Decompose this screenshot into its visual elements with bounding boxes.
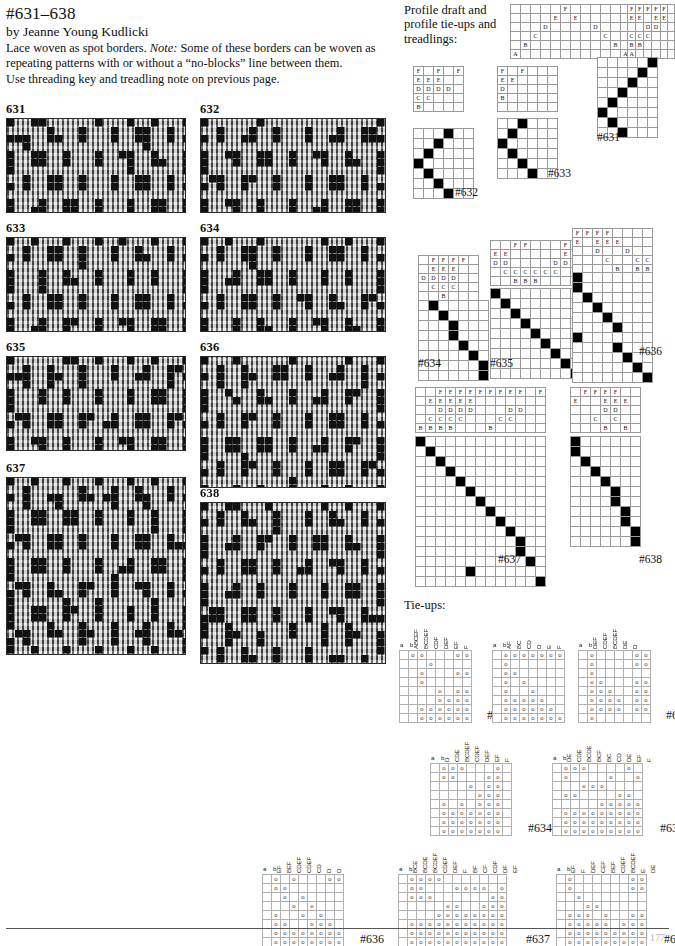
grid-cell (409, 678, 418, 687)
grid-cell (440, 800, 449, 809)
grid-cell (335, 929, 344, 938)
grid-cell (290, 911, 299, 920)
grid-cell (506, 467, 516, 477)
grid-cell (520, 714, 529, 723)
grid-cell (613, 256, 623, 265)
grid-cell: D (551, 259, 561, 268)
grid-cell (581, 424, 591, 433)
grid-row (414, 139, 474, 149)
grid-cell (479, 311, 489, 321)
tieup-column-header: BC (605, 754, 612, 762)
grid-cell (459, 331, 469, 341)
grid-cell (584, 884, 593, 893)
grid-cell: F (583, 229, 593, 238)
woven-sample-image (6, 356, 186, 451)
grid-cell (449, 341, 459, 351)
grid-cell (616, 773, 625, 782)
grid-row: CC (414, 94, 464, 103)
grid-cell (444, 169, 454, 179)
grid-cell (536, 487, 546, 497)
grid-cell (551, 5, 561, 14)
grid-cell (580, 809, 589, 818)
grid-row (493, 669, 565, 678)
tieup-header-row: abBCEBCDEBCDEFCDEFDEFFBFCFCDFDFEF (398, 840, 507, 874)
grid-cell (281, 911, 290, 920)
grid-cell (628, 128, 638, 138)
grid-cell (496, 497, 506, 507)
grid-cell (588, 678, 597, 687)
grid-cell (485, 764, 494, 773)
grid-cell (317, 938, 326, 946)
grid-cell (634, 764, 643, 773)
grid-cell (436, 557, 446, 567)
grid-cell (583, 363, 593, 373)
grid-cell (508, 94, 518, 103)
note-text-lead: Lace woven as spot borders. (6, 41, 150, 55)
grid-cell (489, 929, 498, 938)
grid-cell (625, 773, 634, 782)
grid-cell (526, 497, 536, 507)
grid-cell (644, 14, 652, 23)
grid-cell (434, 169, 444, 179)
grid-cell (317, 893, 326, 902)
grid-cell (469, 265, 479, 274)
grid-cell (551, 349, 561, 359)
grid-cell (446, 497, 456, 507)
grid-cell (496, 577, 506, 587)
grid-cell (573, 353, 583, 363)
sample-label: 636 (200, 341, 386, 354)
grid-cell (633, 238, 643, 247)
grid-cell (584, 875, 593, 884)
grid-cell (607, 773, 616, 782)
grid-cell (456, 437, 466, 447)
grid-cell (633, 293, 643, 303)
grid-cell (603, 333, 613, 343)
grid-cell (606, 660, 615, 669)
grid-cell (588, 687, 597, 696)
grid-cell (538, 103, 548, 112)
grid-cell (601, 5, 611, 14)
grid-row (553, 773, 643, 782)
grid-cell (417, 902, 426, 911)
woven-sample-image (6, 237, 186, 332)
grid-cell: E (429, 265, 439, 274)
grid-cell: E (561, 250, 571, 259)
grid-row (579, 669, 651, 678)
grid-cell (503, 818, 512, 827)
grid-cell (602, 938, 611, 946)
grid-cell (458, 791, 467, 800)
grid-cell (602, 911, 611, 920)
grid-cell (476, 567, 486, 577)
grid-cell (516, 497, 526, 507)
grid-cell (580, 791, 589, 800)
grid-cell (547, 714, 556, 723)
grid-cell (541, 359, 551, 369)
grid-cell (553, 782, 562, 791)
profile-caption-636: #636 (639, 345, 662, 357)
grid-cell (467, 791, 476, 800)
grid-cell (486, 537, 496, 547)
grid-cell (290, 902, 299, 911)
grid-cell (538, 678, 547, 687)
grid-cell (556, 651, 565, 660)
grid-cell (573, 273, 583, 283)
grid-cell (498, 139, 508, 149)
grid-cell (491, 329, 501, 339)
grid-cell (466, 537, 476, 547)
grid-row (573, 363, 653, 373)
grid-cell (466, 457, 476, 467)
grid-cell (581, 397, 591, 406)
grid-row (400, 705, 472, 714)
grid-cell (616, 827, 625, 836)
grid-cell (444, 875, 453, 884)
grid-cell (416, 537, 426, 547)
grid-row: FFFF (491, 241, 581, 250)
grid-cell (562, 818, 571, 827)
grid-cell (589, 764, 598, 773)
grid-cell (598, 773, 607, 782)
grid-cell (638, 128, 648, 138)
grid-cell (498, 911, 507, 920)
grid-cell (486, 527, 496, 537)
grid-cell (417, 929, 426, 938)
grid-row (579, 687, 651, 696)
